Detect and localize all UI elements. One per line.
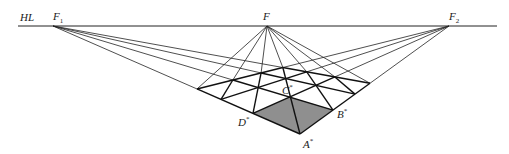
- ray-from-f1: [53, 26, 197, 89]
- vanishing-point-f2-label: F2: [449, 11, 459, 25]
- shaded-square-abcd: [253, 97, 333, 134]
- point-d-label: D*: [238, 116, 249, 128]
- point-b-label: B*: [337, 108, 347, 120]
- ray-from-f: [233, 26, 267, 80]
- perspective-diagram: [0, 0, 509, 154]
- ray-from-f1: [53, 26, 261, 73]
- vanishing-point-f-label: F: [263, 11, 270, 22]
- grid-line: [197, 68, 283, 89]
- ray-from-f: [267, 26, 370, 83]
- ray-from-f1: [53, 26, 233, 80]
- ray-from-f2: [335, 26, 449, 77]
- ray-from-f2: [370, 26, 449, 83]
- ray-from-f2: [307, 26, 449, 72]
- point-c-label: C*: [282, 84, 293, 96]
- ray-from-f: [267, 26, 307, 72]
- ray-from-f1: [53, 26, 283, 68]
- shaded-cell: [253, 97, 333, 134]
- ray-from-f2: [283, 26, 449, 68]
- ray-from-f: [261, 26, 267, 73]
- grid-diagonal: [253, 73, 261, 114]
- point-a-label: A*: [303, 138, 313, 150]
- horizon-label: HL: [20, 12, 34, 23]
- vanishing-point-f1-label: F1: [53, 11, 63, 25]
- perspective-rays: [53, 26, 449, 89]
- grid-line: [261, 73, 355, 94]
